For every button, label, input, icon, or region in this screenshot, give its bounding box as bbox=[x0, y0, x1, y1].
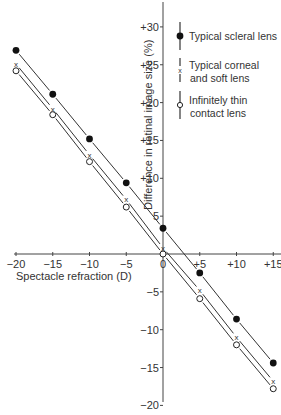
y-tick-label: +30 bbox=[140, 21, 159, 33]
x-tick-label: +10 bbox=[227, 258, 246, 270]
series-segment bbox=[19, 75, 49, 111]
open-circle-marker bbox=[87, 159, 93, 165]
legend-label: contact lens bbox=[190, 107, 246, 119]
series-segment bbox=[203, 303, 234, 341]
y-tick-label: −15 bbox=[140, 362, 159, 374]
open-circle-marker bbox=[50, 112, 56, 118]
filled-circle-marker bbox=[13, 47, 20, 54]
legend: Typical scleral lensxTypical cornealand … bbox=[177, 22, 278, 119]
series-segment bbox=[56, 113, 87, 151]
filled-circle-marker bbox=[160, 225, 167, 232]
legend-label: Typical scleral lens bbox=[189, 30, 277, 42]
filled-circle-marker bbox=[123, 179, 130, 186]
filled-circle-marker bbox=[49, 91, 56, 98]
x-marker: x bbox=[271, 377, 275, 386]
x-tick-label: −20 bbox=[7, 258, 26, 270]
series-segment bbox=[166, 252, 196, 287]
series-segment bbox=[19, 54, 49, 90]
open-circle-marker bbox=[270, 386, 276, 392]
legend-label: and soft lens bbox=[190, 72, 250, 84]
x-axis-title: Spectacle refraction (D) bbox=[16, 270, 132, 282]
open-circle-marker bbox=[197, 296, 203, 302]
x-tick-label: +15 bbox=[264, 258, 281, 270]
series-segment bbox=[93, 143, 123, 179]
y-tick-label: −10 bbox=[140, 324, 159, 336]
x-tick-label: −15 bbox=[43, 258, 62, 270]
legend-filled-circle bbox=[177, 33, 184, 40]
y-axis-title: Difference in retinal image size (%) bbox=[142, 40, 154, 210]
filled-circle-marker bbox=[233, 316, 240, 323]
legend-label: Typical corneal bbox=[189, 59, 259, 71]
legend-x-marker: x bbox=[178, 67, 182, 74]
open-circle-marker bbox=[234, 342, 240, 348]
open-circle-marker bbox=[13, 68, 19, 74]
y-tick-label: −20 bbox=[140, 399, 159, 411]
series-segment bbox=[93, 166, 123, 204]
legend-label: Infinitely thin bbox=[189, 94, 248, 106]
series-segment bbox=[240, 341, 270, 377]
filled-circle-marker bbox=[270, 360, 277, 367]
x-tick-label: −5 bbox=[120, 258, 133, 270]
x-marker: x bbox=[198, 286, 202, 295]
open-circle-marker bbox=[160, 251, 166, 257]
y-tick-label: −5 bbox=[146, 286, 159, 298]
series-segment bbox=[93, 159, 123, 196]
series-segment bbox=[19, 68, 49, 105]
series-segment bbox=[56, 119, 87, 158]
x-marker: x bbox=[235, 333, 239, 342]
series-segment bbox=[56, 98, 86, 135]
x-tick-label: 0 bbox=[160, 258, 166, 270]
x-marker: x bbox=[124, 195, 128, 204]
legend-open-circle bbox=[177, 102, 182, 107]
filled-circle-marker bbox=[196, 270, 203, 277]
filled-circle-marker bbox=[86, 136, 93, 143]
series-segment bbox=[203, 294, 234, 333]
series-segment bbox=[203, 277, 234, 315]
x-tick-label: −10 bbox=[80, 258, 99, 270]
open-circle-marker bbox=[123, 204, 129, 210]
chart: −20−15−10−50+5+10+15+30+25+20+15+105−5−1… bbox=[0, 0, 281, 415]
